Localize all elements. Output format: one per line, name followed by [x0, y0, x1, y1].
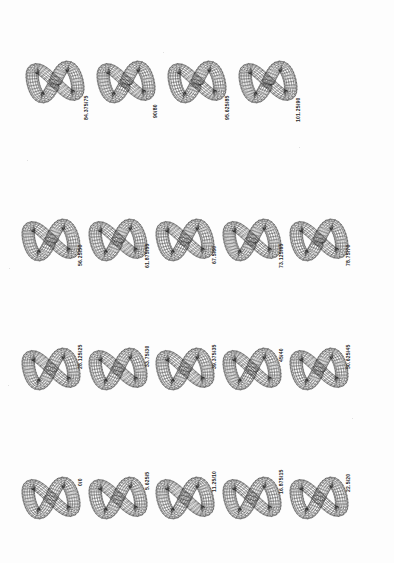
- figure-eight-torus-wireframe: [154, 434, 216, 562]
- figure-cell: [95, 18, 157, 146]
- figure-cell: [154, 176, 216, 304]
- figure-cell: [288, 176, 350, 304]
- figure-eight-torus-wireframe: [87, 176, 149, 304]
- figure-angle-label: 5.625/5: [145, 472, 150, 490]
- figure-cell: [237, 18, 299, 146]
- figure-angle-label: 0/0: [78, 478, 83, 486]
- figure-angle-label: 84.375/75: [84, 96, 89, 120]
- figure-eight-torus-wireframe: [20, 434, 82, 562]
- row-2: 56.25/5061.875/5567.5/6073.125/6578.75/7…: [0, 176, 394, 304]
- figure-angle-label: 56.25/50: [78, 245, 83, 266]
- scanned-figure-sheet: 84.375/7590/8095.625/85101.25/9056.25/50…: [0, 0, 394, 563]
- figure-eight-torus-wireframe: [288, 434, 350, 562]
- figure-eight-torus-wireframe: [87, 305, 149, 433]
- figure-cell: [20, 176, 82, 304]
- figure-eight-torus-wireframe: [95, 18, 157, 146]
- figure-angle-label: 73.125/65: [279, 244, 284, 268]
- figure-eight-torus-wireframe: [154, 305, 216, 433]
- figure-angle-label: 67.5/60: [212, 246, 217, 264]
- figure-angle-label: 28.125/25: [78, 345, 83, 369]
- figure-angle-label: 22.5/20: [346, 474, 351, 492]
- figure-cell: [20, 434, 82, 562]
- row-1: 84.375/7590/8095.625/85101.25/90: [0, 18, 394, 146]
- row-4: 0/05.625/511.25/1016.875/1522.5/20: [0, 434, 394, 562]
- figure-eight-torus-wireframe: [20, 176, 82, 304]
- figure-eight-torus-wireframe: [87, 434, 149, 562]
- figure-cell: [87, 434, 149, 562]
- figure-angle-label: 78.75/70: [346, 245, 351, 266]
- figure-eight-torus-wireframe: [154, 176, 216, 304]
- figure-eight-torus-wireframe: [166, 18, 228, 146]
- figure-eight-torus-wireframe: [221, 434, 283, 562]
- figure-eight-torus-wireframe: [24, 18, 86, 146]
- figure-angle-label: 39.375/35: [212, 345, 217, 369]
- figure-eight-torus-wireframe: [288, 176, 350, 304]
- figure-angle-label: 11.25/10: [212, 471, 217, 492]
- figure-cell: [154, 434, 216, 562]
- figure-angle-label: 101.25/90: [296, 98, 301, 122]
- figure-eight-torus-wireframe: [221, 305, 283, 433]
- scan-speck: [299, 147, 300, 148]
- figure-eight-torus-wireframe: [221, 176, 283, 304]
- figure-eight-torus-wireframe: [20, 305, 82, 433]
- figure-cell: [87, 176, 149, 304]
- figure-angle-label: 45/40: [279, 348, 284, 362]
- scan-speck: [27, 160, 28, 161]
- figure-angle-label: 95.625/85: [225, 96, 230, 120]
- row-3: 28.125/2533.75/3039.375/3545/4050.625/45: [0, 305, 394, 433]
- figure-angle-label: 90/80: [153, 104, 158, 118]
- figure-cell: [221, 305, 283, 433]
- figure-angle-label: 61.875/55: [145, 244, 150, 268]
- figure-cell: [20, 305, 82, 433]
- figure-cell: [24, 18, 86, 146]
- figure-cell: [154, 305, 216, 433]
- figure-eight-torus-wireframe: [288, 305, 350, 433]
- figure-cell: [221, 434, 283, 562]
- figure-angle-label: 50.625/45: [346, 345, 351, 369]
- figure-cell: [166, 18, 228, 146]
- figure-eight-torus-wireframe: [237, 18, 299, 146]
- figure-angle-label: 16.875/15: [279, 470, 284, 494]
- figure-cell: [288, 305, 350, 433]
- figure-angle-label: 33.75/30: [145, 346, 150, 367]
- figure-cell: [288, 434, 350, 562]
- figure-cell: [87, 305, 149, 433]
- figure-cell: [221, 176, 283, 304]
